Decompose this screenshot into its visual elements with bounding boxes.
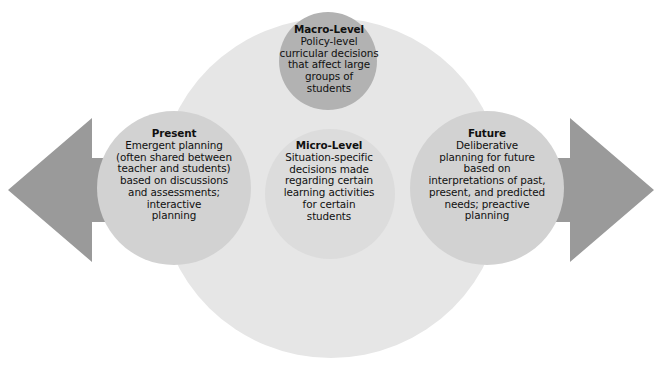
macro-level-circle (279, 12, 377, 110)
present-circle (97, 111, 251, 265)
future-circle (410, 111, 564, 265)
diagram-canvas: Macro-Level Policy-level curricular deci… (0, 0, 662, 369)
diagram-graphics (0, 0, 662, 369)
micro-level-circle (265, 129, 395, 259)
